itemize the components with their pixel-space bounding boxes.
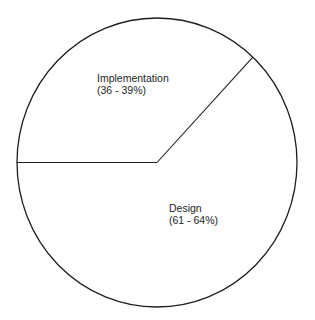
slice-name: Implementation	[97, 73, 169, 85]
slice-range: (36 - 39%)	[97, 85, 169, 97]
slice-label-design: Design (61 - 64%)	[169, 203, 218, 226]
slice-label-implementation: Implementation (36 - 39%)	[97, 73, 169, 96]
pie-chart	[0, 0, 315, 320]
slice-name: Design	[169, 203, 218, 215]
slice-range: (61 - 64%)	[169, 215, 218, 227]
